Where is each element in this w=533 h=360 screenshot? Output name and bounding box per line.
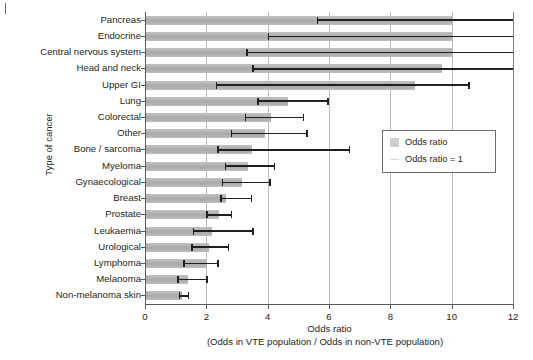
x-axis-tick-label: 0 xyxy=(142,311,147,322)
error-bar-cap-high xyxy=(228,244,230,251)
error-bar-line xyxy=(252,68,513,70)
error-bar-cap-low xyxy=(206,211,208,218)
y-axis-tick xyxy=(141,20,145,21)
category-label: Pancreas xyxy=(8,15,141,25)
category-label: Urological xyxy=(8,242,141,252)
category-label: Lung xyxy=(8,96,141,106)
category-label: Upper GI xyxy=(8,80,141,90)
x-axis-tick-label: 6 xyxy=(326,311,331,322)
x-axis-title: Odds ratio xyxy=(145,323,514,334)
error-bar-cap-high xyxy=(468,82,470,89)
error-bar-line xyxy=(231,133,308,135)
y-axis-tick xyxy=(141,149,145,150)
error-bar-cap-low xyxy=(177,276,179,283)
gridline xyxy=(513,12,514,304)
x-axis-tick xyxy=(145,304,146,309)
error-bar-line xyxy=(220,198,252,200)
category-label: Central nervous system xyxy=(8,47,141,57)
error-bar-cap-high xyxy=(252,228,254,235)
error-bar-line xyxy=(191,246,229,248)
category-label: Prostate xyxy=(8,209,141,219)
error-bar-cap-low xyxy=(245,114,247,121)
error-bar-cap-high xyxy=(251,195,253,202)
error-bar-line xyxy=(206,214,232,216)
x-axis-tick-label: 12 xyxy=(508,311,519,322)
y-axis-tick xyxy=(141,263,145,264)
error-bar-cap-high xyxy=(274,163,276,170)
category-label: Other xyxy=(8,128,141,138)
error-bar-line xyxy=(257,100,329,102)
y-axis-tick xyxy=(141,85,145,86)
y-axis-tick xyxy=(141,101,145,102)
legend-item-label: Odds ratio xyxy=(405,137,447,147)
x-axis-tick-label: 8 xyxy=(388,311,393,322)
category-label: Lymphoma xyxy=(8,258,141,268)
x-axis-tick xyxy=(329,304,330,309)
error-bar-cap-low xyxy=(179,292,181,299)
category-label: Myeloma xyxy=(8,161,141,171)
reference-line-icon xyxy=(390,155,399,164)
y-axis-tick xyxy=(141,231,145,232)
error-bar-line xyxy=(225,165,276,167)
x-axis-tick-label: 2 xyxy=(204,311,209,322)
error-bar-line xyxy=(245,117,305,119)
error-bar-cap-low xyxy=(317,17,319,24)
error-bar-cap-low xyxy=(252,65,254,72)
error-bar-cap-low xyxy=(222,179,224,186)
error-bar-cap-high xyxy=(303,114,305,121)
y-axis-tick xyxy=(141,295,145,296)
page-corner-tick xyxy=(5,3,6,14)
error-bar-cap-high xyxy=(327,98,329,105)
error-bar-cap-high xyxy=(217,260,219,267)
x-axis-subtitle: (Odds in VTE population / Odds in non-VT… xyxy=(120,336,530,347)
category-label: Head and neck xyxy=(8,63,141,73)
error-bar-cap-high xyxy=(349,146,351,153)
category-label: Non-melanoma skin xyxy=(8,290,141,300)
category-label: Colorectal xyxy=(8,112,141,122)
y-axis-tick xyxy=(141,68,145,69)
error-bar-line xyxy=(217,149,350,151)
y-axis-tick xyxy=(141,198,145,199)
error-bar-cap-low xyxy=(183,260,185,267)
y-axis-tick xyxy=(141,166,145,167)
y-axis-tick xyxy=(141,52,145,53)
error-bar-line xyxy=(216,84,471,86)
x-axis-tick xyxy=(513,304,514,309)
y-axis-tick xyxy=(141,214,145,215)
x-axis-tick xyxy=(268,304,269,309)
error-bar-cap-low xyxy=(193,228,195,235)
error-bar-cap-low xyxy=(220,195,222,202)
error-bar-cap-low xyxy=(231,130,233,137)
error-bar-line xyxy=(193,230,254,232)
error-bar-cap-low xyxy=(191,244,193,251)
category-label: Leukaemia xyxy=(8,226,141,236)
legend-item-reference-line: Odds ratio = 1 xyxy=(390,153,463,165)
error-bar-cap-high xyxy=(231,211,233,218)
legend-item-odds-ratio: Odds ratio xyxy=(390,136,447,148)
x-axis-tick xyxy=(206,304,207,309)
x-axis-tick-label: 10 xyxy=(446,311,457,322)
error-bar-line xyxy=(222,182,271,184)
category-label: Breast xyxy=(8,193,141,203)
y-axis-tick xyxy=(141,182,145,183)
error-bar-line xyxy=(246,52,513,54)
category-label: Bone / sarcoma xyxy=(8,144,141,154)
bar xyxy=(146,291,182,300)
error-bar-cap-low xyxy=(216,82,218,89)
error-bar-line xyxy=(177,279,208,281)
category-label: Melanoma xyxy=(8,274,141,284)
error-bar-cap-high xyxy=(269,179,271,186)
error-bar-line xyxy=(317,19,513,21)
odds-ratio-forest-bar-chart: Type of cancer PancreasEndocrineCentral … xyxy=(0,0,533,360)
category-label-column: PancreasEndocrineCentral nervous systemH… xyxy=(8,12,141,304)
error-bar-cap-low xyxy=(268,33,270,40)
y-axis-tick xyxy=(141,36,145,37)
y-axis-tick xyxy=(141,117,145,118)
error-bar-line xyxy=(183,263,218,265)
x-axis-tick xyxy=(452,304,453,309)
legend-item-label: Odds ratio = 1 xyxy=(405,154,463,164)
error-bar-cap-low xyxy=(257,98,259,105)
legend: Odds ratio Odds ratio = 1 xyxy=(382,130,496,173)
error-bar-cap-low xyxy=(225,163,227,170)
error-bar-cap-low xyxy=(217,146,219,153)
